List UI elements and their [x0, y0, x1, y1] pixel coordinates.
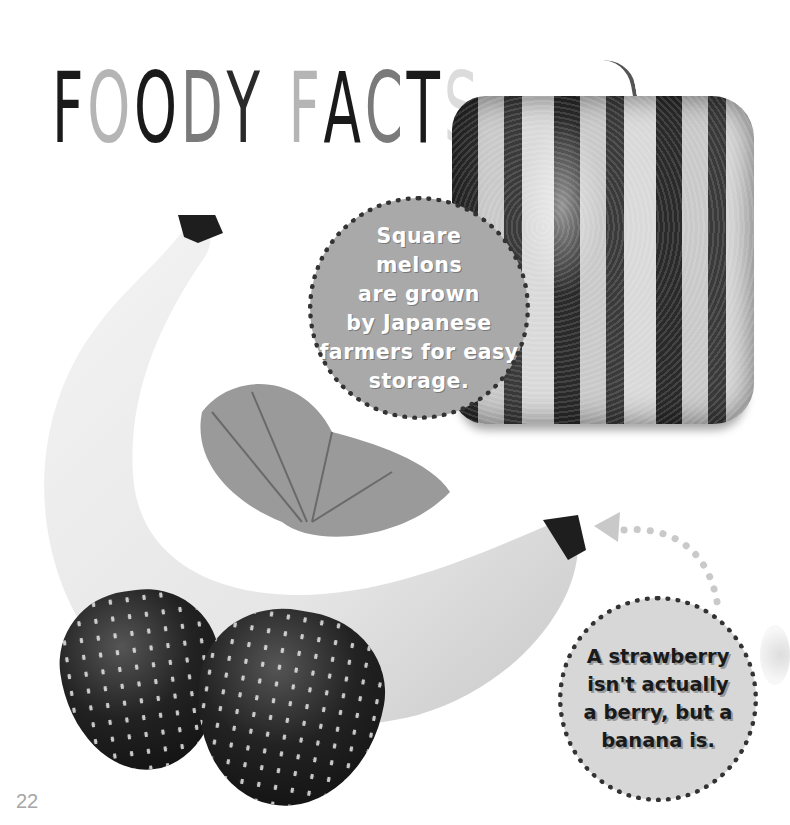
dotted-border	[558, 596, 758, 802]
edge-decoration	[760, 625, 790, 685]
title-letter: O	[87, 58, 134, 158]
dotted-border	[308, 196, 530, 420]
title-letter: O	[134, 58, 181, 158]
title-letter: C	[365, 58, 407, 158]
fact-bubble-square-melons: Square melons are grown by Japanese farm…	[310, 198, 528, 418]
page-number: 22	[16, 790, 38, 813]
fact-bubble-strawberry: A strawberry isn't actually a berry, but…	[560, 598, 756, 800]
title-letter: F	[52, 58, 87, 158]
title-letter: D	[181, 58, 227, 158]
title-letter: Y	[226, 58, 263, 158]
title-letter: A	[324, 58, 365, 158]
title-letter: T	[407, 58, 444, 158]
strawberry-image	[180, 595, 397, 820]
page-title: FOODYFACTS	[52, 58, 482, 158]
title-letter: F	[288, 58, 323, 158]
